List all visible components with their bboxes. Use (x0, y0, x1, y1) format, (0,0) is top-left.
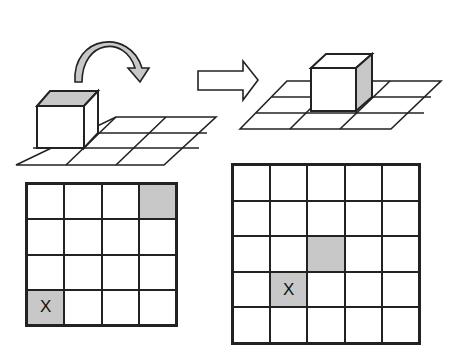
grid-cell (233, 201, 270, 237)
grid-cell (382, 201, 419, 237)
grid-cell (307, 236, 344, 272)
grid-cell (139, 255, 176, 290)
left-cube (37, 91, 98, 148)
grid-cell (27, 184, 64, 219)
grid-cell (27, 255, 64, 290)
roll-curved-arrow-icon (75, 42, 149, 82)
grid-cell (307, 201, 344, 237)
grid-cell (139, 184, 176, 219)
grid-cell (233, 272, 270, 308)
grid-cell (102, 255, 139, 290)
grid-cell (270, 307, 307, 343)
grid-cell (102, 184, 139, 219)
grid-cell (27, 219, 64, 254)
grid-cell (270, 201, 307, 237)
right-arrow-icon (198, 61, 258, 100)
grid-cell (270, 236, 307, 272)
grid-cell (270, 165, 307, 201)
grid-cell (307, 307, 344, 343)
grid-right-5x5: X (231, 163, 421, 345)
grid-cell (64, 255, 101, 290)
grid-cell (64, 219, 101, 254)
x-marker: X (283, 280, 294, 300)
grid-cell: X (27, 290, 64, 325)
grid-cell: X (270, 272, 307, 308)
grid-cell (382, 307, 419, 343)
grid-cell (345, 201, 382, 237)
grid-cell (233, 307, 270, 343)
grid-cell (139, 219, 176, 254)
grid-cell (382, 236, 419, 272)
right-cube (311, 54, 372, 111)
grid-cell (307, 272, 344, 308)
grid-cell (64, 290, 101, 325)
grid-cell (382, 272, 419, 308)
grid-cell (345, 272, 382, 308)
grid-cell (345, 307, 382, 343)
grid-cell (102, 290, 139, 325)
grid-cell (102, 219, 139, 254)
grid-cell (382, 165, 419, 201)
x-marker: X (40, 297, 51, 317)
grid-left-4x4: X (25, 182, 178, 327)
grid-cell (139, 290, 176, 325)
grid-cell (233, 236, 270, 272)
grid-cell (307, 165, 344, 201)
grid-cell (345, 236, 382, 272)
grid-cell (345, 165, 382, 201)
grid-cell (233, 165, 270, 201)
grid-cell (64, 184, 101, 219)
